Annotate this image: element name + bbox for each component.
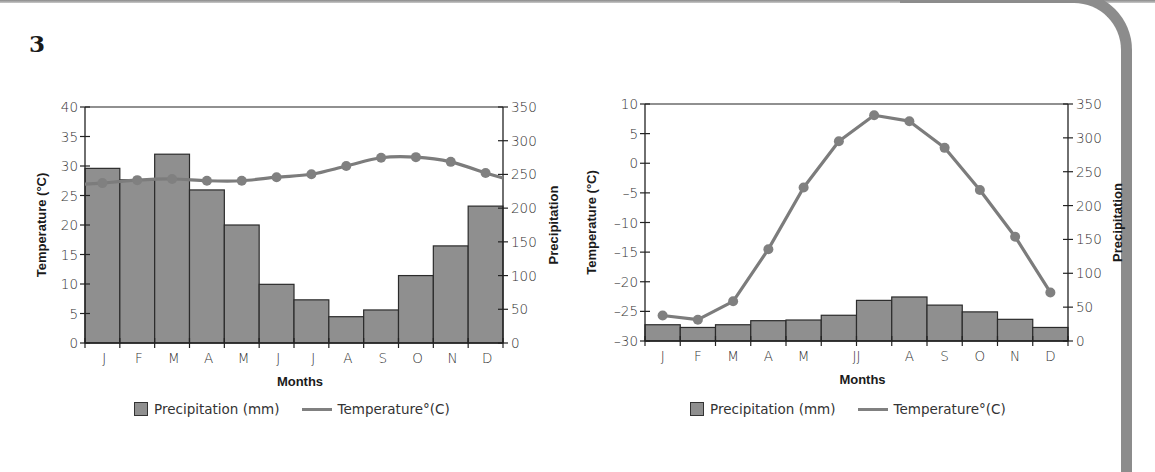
precipitation-bar	[716, 325, 751, 341]
right-y-tick-label: 0	[1076, 333, 1085, 349]
left-y-axis-title: Temperature (°C)	[584, 170, 599, 275]
left-y-tick-label: 0	[629, 155, 638, 171]
temperature-marker	[658, 311, 668, 321]
x-axis-title: Months	[839, 372, 885, 387]
right-y-tick-label: 350	[1076, 96, 1102, 112]
chart-2-legend: Precipitation (mm) Temperature°(C)	[690, 401, 1006, 417]
x-tick-label: N	[1010, 348, 1020, 364]
precipitation-bar	[927, 305, 962, 341]
x-tick-label: M	[727, 348, 739, 364]
temperature-marker	[763, 244, 773, 254]
temperature-marker	[1045, 287, 1055, 297]
temperature-marker	[975, 185, 985, 195]
x-tick-label: JJ	[853, 348, 861, 364]
temperature-line	[663, 115, 1051, 319]
precipitation-bar	[751, 321, 786, 341]
x-tick-label: M	[798, 348, 810, 364]
right-y-tick-label: 50	[1076, 299, 1093, 315]
right-y-tick-label: 200	[1076, 198, 1102, 214]
x-tick-label: J	[661, 348, 665, 364]
left-y-tick-label: –5	[623, 185, 638, 201]
left-y-tick-label: –10	[614, 215, 638, 231]
precipitation-bars	[645, 297, 1068, 341]
right-y-tick-label: 150	[1076, 231, 1102, 247]
temperature-marker	[834, 136, 844, 146]
precipitation-bar	[998, 319, 1033, 341]
x-tick-label: F	[694, 348, 702, 364]
temperature-marker	[869, 110, 879, 120]
left-y-tick-label: –30	[614, 333, 638, 349]
x-tick-label: A	[764, 348, 773, 364]
precipitation-bar	[962, 312, 997, 341]
precipitation-bar	[786, 320, 821, 341]
precipitation-bar	[857, 300, 892, 341]
temperature-marker	[904, 116, 914, 126]
precipitation-bar	[680, 327, 715, 341]
precipitation-legend-swatch	[690, 402, 704, 416]
temperature-marker	[1010, 232, 1020, 242]
x-tick-label: O	[975, 348, 986, 364]
temperature-marker	[799, 183, 809, 193]
x-tick-label: A	[905, 348, 914, 364]
precipitation-legend-label: Precipitation (mm)	[710, 401, 836, 417]
left-y-tick-label: –25	[614, 303, 638, 319]
left-y-tick-label: 10	[621, 96, 638, 112]
left-y-tick-label: –15	[614, 244, 638, 260]
left-y-tick-label: –20	[614, 274, 638, 290]
temperature-legend-line-icon	[858, 408, 888, 411]
x-tick-label: S	[940, 348, 949, 364]
precipitation-bar	[821, 315, 856, 341]
temperature-marker	[693, 315, 703, 325]
left-y-tick-label: 5	[629, 126, 638, 142]
temperature-legend-label: Temperature°(C)	[894, 401, 1006, 417]
right-y-tick-label: 300	[1076, 130, 1102, 146]
temperature-marker	[940, 143, 950, 153]
precipitation-bar	[892, 297, 927, 341]
right-y-tick-label: 250	[1076, 164, 1102, 180]
right-y-tick-label: 100	[1076, 265, 1102, 281]
right-y-axis-title: Precipitation	[1110, 183, 1125, 262]
x-tick-label: D	[1045, 348, 1055, 364]
precipitation-bar	[1033, 327, 1068, 341]
precipitation-bar	[645, 325, 680, 341]
temperature-marker	[728, 296, 738, 306]
